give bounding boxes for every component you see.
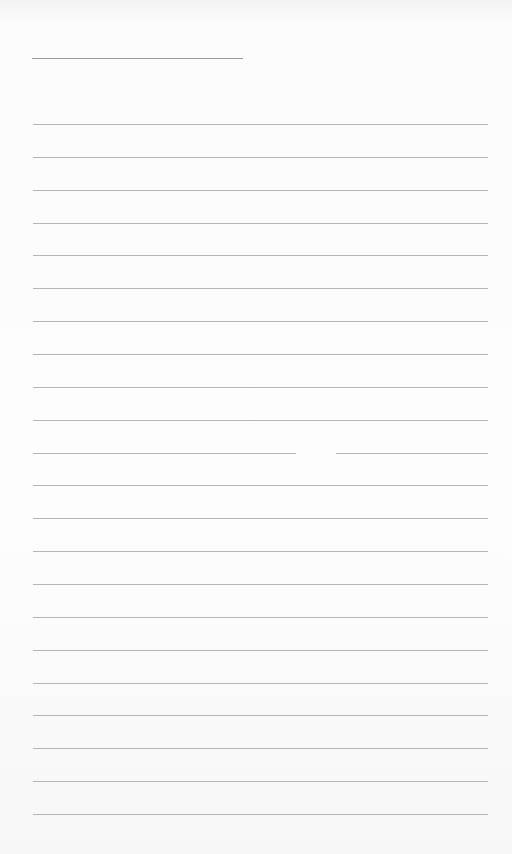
ruled-line bbox=[33, 157, 488, 158]
ruled-line bbox=[33, 584, 488, 585]
ruled-line bbox=[33, 288, 488, 289]
ruled-line bbox=[33, 650, 488, 651]
ruled-line bbox=[33, 255, 488, 256]
ruled-line bbox=[33, 453, 488, 454]
ruled-line bbox=[33, 124, 488, 125]
ruled-line bbox=[33, 748, 488, 749]
ruled-line bbox=[33, 617, 488, 618]
ruled-line bbox=[33, 321, 488, 322]
ruled-line bbox=[33, 551, 488, 552]
ruled-line bbox=[33, 715, 488, 716]
ruled-line bbox=[33, 518, 488, 519]
ruled-line bbox=[33, 814, 488, 815]
ruled-line bbox=[33, 190, 488, 191]
ruled-line bbox=[33, 683, 488, 684]
lined-paper-page bbox=[0, 0, 512, 854]
line-gap bbox=[296, 452, 336, 455]
ruled-line bbox=[33, 223, 488, 224]
name-header-line bbox=[32, 58, 243, 59]
ruled-line bbox=[33, 485, 488, 486]
ruled-line bbox=[33, 781, 488, 782]
ruled-line bbox=[33, 420, 488, 421]
ruled-line bbox=[33, 387, 488, 388]
ruled-line bbox=[33, 354, 488, 355]
